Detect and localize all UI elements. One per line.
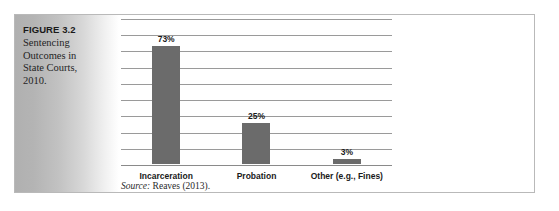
figure-caption-text: Sentencing Outcomes in State Courts, 201… (23, 37, 95, 87)
figure-frame: FIGURE 3.2 Sentencing Outcomes in State … (14, 14, 535, 193)
bar-value-label: 25% (248, 111, 265, 121)
bar-other-e-g-fines[interactable] (333, 159, 361, 164)
bar-incarceration[interactable] (152, 46, 180, 164)
category-label: Other (e.g., Fines) (302, 171, 392, 181)
axis-baseline (121, 165, 392, 166)
figure-number-label: FIGURE 3.2 (23, 24, 111, 36)
plot-region: 73%Incarceration25%Probation3%Other (e.g… (121, 19, 392, 165)
bar-value-label: 73% (158, 34, 175, 44)
bar-group: 3%Other (e.g., Fines) (302, 19, 392, 165)
source-citation: Reaves (2013). (150, 181, 210, 191)
source-label: Source: (121, 181, 150, 191)
bar-group: 73%Incarceration (121, 19, 211, 165)
chart-area: 73%Incarceration25%Probation3%Other (e.g… (119, 15, 534, 192)
category-label: Incarceration (121, 171, 211, 181)
bar-value-label: 3% (341, 147, 353, 157)
figure-caption-block: FIGURE 3.2 Sentencing Outcomes in State … (23, 24, 111, 87)
bars-group: 73%Incarceration25%Probation3%Other (e.g… (121, 19, 392, 165)
source-note: Source: Reaves (2013). (121, 181, 210, 191)
figure-caption-panel: FIGURE 3.2 Sentencing Outcomes in State … (15, 15, 119, 192)
category-label: Probation (211, 171, 301, 181)
bar-group: 25%Probation (211, 19, 301, 165)
bar-probation[interactable] (242, 123, 270, 164)
